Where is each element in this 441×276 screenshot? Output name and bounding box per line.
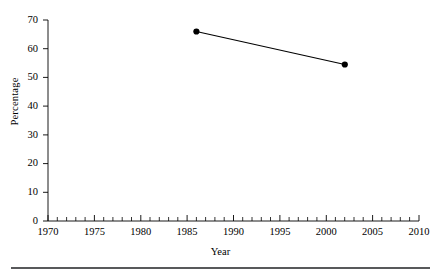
bottom-horizontal-rule — [11, 267, 430, 269]
x-tick-label: 1980 — [117, 226, 165, 237]
x-tick-label: 1975 — [70, 226, 118, 237]
x-tick-label: 1985 — [163, 226, 211, 237]
y-axis-ticks — [43, 20, 48, 221]
x-tick-label: 1990 — [210, 226, 258, 237]
data-series-line — [196, 31, 344, 64]
y-tick-label: 20 — [6, 158, 38, 168]
x-axis-title: Year — [0, 246, 441, 257]
y-axis-title: Percentage — [9, 62, 20, 142]
y-tick-label: 10 — [6, 187, 38, 197]
x-tick-label: 1995 — [256, 226, 304, 237]
y-tick-label: 70 — [6, 15, 38, 25]
data-point-marker — [193, 28, 199, 34]
data-point-marker — [342, 61, 348, 67]
y-tick-label: 60 — [6, 44, 38, 54]
x-tick-label: 1970 — [24, 226, 72, 237]
figure-container: 0 10 20 30 40 50 60 70 1970 1975 1980 19… — [0, 0, 441, 276]
x-tick-label: 2005 — [349, 226, 397, 237]
x-tick-label: 2010 — [395, 226, 441, 237]
x-tick-label: 2000 — [302, 226, 350, 237]
y-tick-label: 0 — [6, 216, 38, 226]
